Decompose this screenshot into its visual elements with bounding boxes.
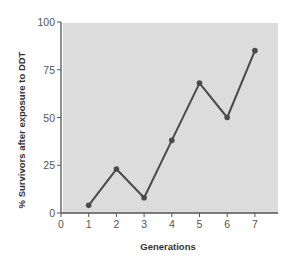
x-tick-label: 1 (86, 218, 92, 230)
x-tick-label: 7 (252, 218, 258, 230)
data-point (197, 80, 203, 86)
x-tick-label: 2 (113, 218, 119, 230)
y-tick-label: 75 (43, 64, 55, 76)
data-point (114, 166, 120, 172)
x-axis-ticks: 01234567 (58, 213, 258, 230)
y-tick-label: 50 (43, 112, 55, 124)
y-tick-label: 100 (37, 16, 55, 28)
y-axis-title: % Survivors after exposure to DDT (16, 51, 27, 208)
x-tick-label: 3 (141, 218, 147, 230)
plot-area (63, 23, 278, 213)
y-tick-label: 0 (49, 207, 55, 219)
line-chart: 0255075100 01234567 Generations % Surviv… (0, 0, 290, 261)
data-point (169, 138, 175, 144)
y-axis-ticks: 0255075100 (37, 16, 61, 219)
data-point (252, 48, 258, 54)
y-tick-label: 25 (43, 159, 55, 171)
x-tick-label: 0 (58, 218, 64, 230)
x-tick-label: 6 (224, 218, 230, 230)
x-axis-title: Generations (140, 241, 195, 252)
data-point (86, 203, 92, 209)
data-point (224, 115, 230, 121)
x-tick-label: 4 (169, 218, 175, 230)
data-point (141, 195, 147, 201)
x-tick-label: 5 (197, 218, 203, 230)
